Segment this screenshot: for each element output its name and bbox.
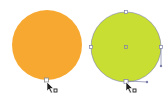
artboard-canvas[interactable] bbox=[0, 0, 167, 97]
direction-handle-point-right[interactable] bbox=[160, 65, 162, 67]
direct-selection-cursor-icon bbox=[126, 82, 136, 93]
green-circle[interactable] bbox=[91, 12, 161, 82]
direct-selection-cursor-icon bbox=[47, 82, 57, 93]
direction-handle-point-bottom[interactable] bbox=[146, 81, 148, 83]
anchor-point-top[interactable] bbox=[125, 11, 128, 14]
anchor-point-left[interactable] bbox=[90, 46, 93, 49]
orange-circle[interactable] bbox=[12, 10, 82, 80]
anchor-point[interactable] bbox=[45, 78, 49, 82]
